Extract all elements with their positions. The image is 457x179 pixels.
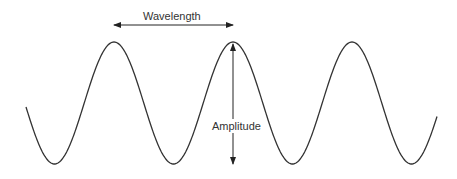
amplitude-label: Amplitude xyxy=(211,119,262,133)
wave-figure xyxy=(0,0,457,179)
sine-wave xyxy=(26,42,437,164)
wavelength-label: Wavelength xyxy=(143,10,201,22)
wave-diagram: Wavelength Amplitude xyxy=(0,0,457,179)
